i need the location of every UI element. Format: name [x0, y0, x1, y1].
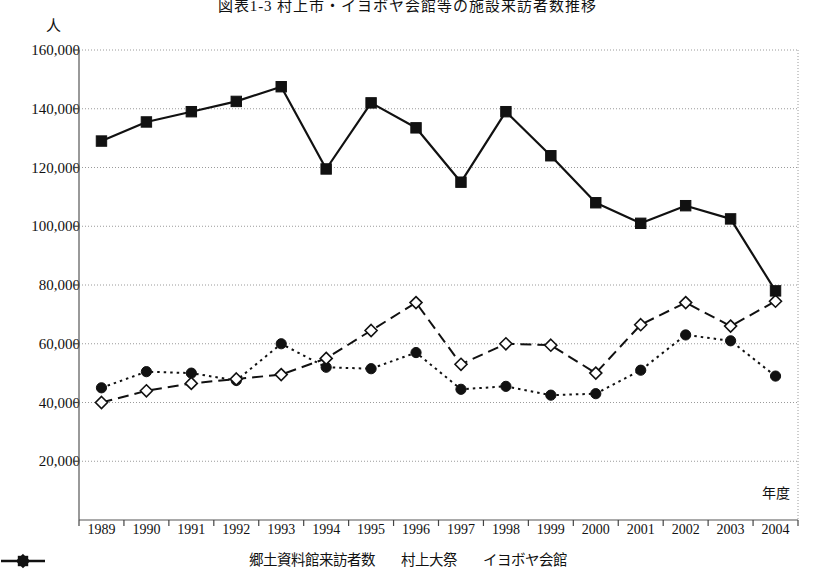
data-point-diamond — [725, 320, 737, 332]
data-point-circle — [456, 384, 466, 394]
data-point-square — [186, 106, 196, 116]
series-open-diamond — [96, 295, 782, 408]
data-point-diamond — [770, 295, 782, 307]
data-point-square — [591, 198, 601, 208]
data-point-circle — [591, 389, 601, 399]
data-point-circle — [411, 347, 421, 357]
data-point-circle — [501, 381, 511, 391]
data-point-square — [321, 164, 331, 174]
data-point-square — [725, 214, 735, 224]
data-point-circle — [725, 336, 735, 346]
data-point-circle — [96, 383, 106, 393]
data-point-diamond — [545, 339, 557, 351]
legend-item: イヨボヤ会館 — [483, 553, 567, 568]
data-point-circle — [681, 330, 691, 340]
data-point-circle — [366, 364, 376, 374]
data-point-circle — [636, 365, 646, 375]
legend-marker-filled-square-icon — [0, 553, 46, 569]
legend-label: 郷土資料館来訪者数 — [249, 553, 375, 568]
data-point-square — [770, 286, 780, 296]
data-point-diamond — [365, 325, 377, 337]
data-point-circle — [276, 339, 286, 349]
data-point-square — [276, 82, 286, 92]
data-point-circle — [141, 367, 151, 377]
data-point-diamond — [680, 297, 692, 309]
data-point-square — [680, 200, 690, 210]
data-point-diamond — [140, 385, 152, 397]
data-point-diamond — [500, 338, 512, 350]
data-point-square — [636, 218, 646, 228]
data-point-square — [366, 98, 376, 108]
data-point-square — [456, 177, 466, 187]
legend-label: イヨボヤ会館 — [483, 553, 567, 568]
plot-area — [0, 0, 815, 585]
chart-figure: 図表1-3 村上市・イヨボヤ会館等の施設来訪者数推移 人 年度 160,0001… — [0, 0, 815, 585]
series-line — [102, 87, 776, 291]
chart-legend: 郷土資料館来訪者数村上大祭イヨボヤ会館 — [0, 553, 815, 568]
data-point-square — [546, 151, 556, 161]
series-filled-square — [96, 82, 780, 297]
data-point-square — [411, 123, 421, 133]
series-filled-circle — [96, 330, 780, 400]
data-point-square — [501, 106, 511, 116]
legend-item: 村上大祭 — [401, 553, 457, 568]
data-point-circle — [770, 371, 780, 381]
data-point-circle — [546, 390, 556, 400]
legend-label: 村上大祭 — [401, 553, 457, 568]
data-point-diamond — [275, 369, 287, 381]
data-point-square — [96, 136, 106, 146]
legend-item: 郷土資料館来訪者数 — [249, 553, 375, 568]
data-point-square — [141, 117, 151, 127]
data-point-diamond — [320, 352, 332, 364]
series-line — [102, 301, 776, 402]
data-point-square — [231, 96, 241, 106]
data-point-diamond — [96, 397, 108, 409]
data-point-diamond — [185, 377, 197, 389]
data-point-diamond — [455, 358, 467, 370]
